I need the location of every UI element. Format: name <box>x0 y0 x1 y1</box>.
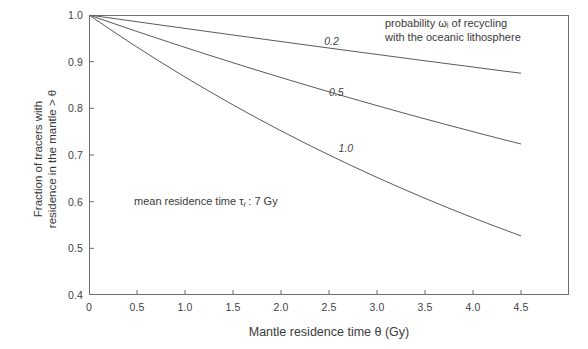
x-tick-label: 3.0 <box>370 301 385 313</box>
x-tick-label: 1.0 <box>178 301 193 313</box>
x-tick-label: 4.5 <box>514 301 529 313</box>
curves-svg <box>89 15 569 295</box>
x-tick-label: 2.5 <box>322 301 337 313</box>
curve-label-0-2: 0.2 <box>324 35 339 47</box>
annotation-mean-residence-time: mean residence time τi : 7 Gy <box>134 195 278 209</box>
x-tick-label: 2.0 <box>274 301 289 313</box>
y-axis-title: Fraction of tracers with residence in th… <box>31 19 59 299</box>
x-tick-label: 0 <box>86 301 92 313</box>
y-axis-title-line2: residence in the mantle > θ <box>45 19 59 299</box>
x-tick-label: 4.0 <box>466 301 481 313</box>
annotation-recycling-probability: probability ωᵢ of recycling with the oce… <box>385 17 521 44</box>
y-axis-title-line1: Fraction of tracers with <box>31 19 45 299</box>
annotation-residence-prefix: mean residence time τ <box>134 195 244 207</box>
x-tick-label: 1.5 <box>226 301 241 313</box>
x-tick-label: 0.5 <box>130 301 145 313</box>
curve-label-0-5: 0.5 <box>329 86 344 98</box>
x-axis-title: Mantle residence time θ (Gy) <box>89 325 569 339</box>
tick-marks-group <box>89 15 521 295</box>
curve-label-1-0: 1.0 <box>339 142 354 154</box>
figure-container: 0.40.50.60.70.80.91.0 00.51.01.52.02.53.… <box>0 0 588 349</box>
annotation-residence-suffix: : 7 Gy <box>245 195 277 207</box>
annotation-recycling-line1: probability ωᵢ of recycling <box>385 17 521 31</box>
annotation-recycling-line2: with the oceanic lithosphere <box>385 31 521 45</box>
x-tick-label: 3.5 <box>418 301 433 313</box>
